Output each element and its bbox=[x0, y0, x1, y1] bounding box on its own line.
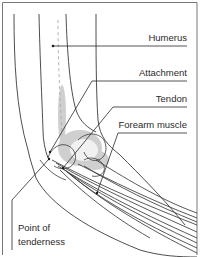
label-attachment: Attachment bbox=[139, 67, 187, 78]
forearm-muscle-dot bbox=[96, 192, 98, 194]
label-point-of-tenderness-line1: Point of bbox=[18, 222, 50, 233]
olecranon bbox=[40, 160, 66, 180]
label-point-of-tenderness-line2: tenderness bbox=[18, 236, 65, 247]
upper-arm-outline-back bbox=[14, 14, 197, 257]
tendon-dot bbox=[62, 167, 64, 169]
attachment-dot bbox=[49, 151, 51, 153]
label-tendon: Tendon bbox=[156, 93, 187, 104]
elbow-diagram: Humerus Attachment Tendon Forearm muscle… bbox=[0, 0, 200, 257]
label-forearm-muscle: Forearm muscle bbox=[118, 119, 187, 130]
label-humerus: Humerus bbox=[148, 32, 187, 43]
humerus-dot bbox=[52, 45, 55, 48]
humerus-shaft-left bbox=[39, 14, 48, 158]
forearm-muscle-leader bbox=[97, 133, 187, 193]
tenderness-dot bbox=[48, 158, 50, 160]
humerus-shaft-right bbox=[66, 14, 96, 132]
